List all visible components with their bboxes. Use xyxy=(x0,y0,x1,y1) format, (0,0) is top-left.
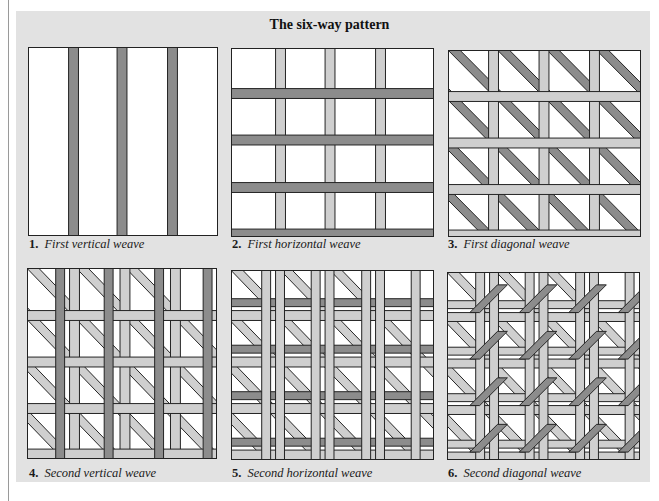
diagram-title: The six-way pattern xyxy=(0,17,659,33)
figure-6-second-diagonal-weave xyxy=(447,272,640,460)
vertical-strands-illustration xyxy=(29,48,217,235)
figure-5-second-horizontal-weave xyxy=(231,270,434,460)
second-horizontal-strands-illustration xyxy=(232,271,433,459)
horizontal-strands-illustration xyxy=(232,49,433,236)
figure-1-caption: 1.First vertical weave xyxy=(29,237,144,252)
second-vertical-strands-illustration xyxy=(28,269,216,458)
figure-4-second-vertical-weave xyxy=(27,268,217,459)
figure-2-first-horizontal-weave xyxy=(231,48,434,237)
figure-1-first-vertical-weave xyxy=(28,47,218,236)
figure-3-caption: 3.First diagonal weave xyxy=(448,237,570,252)
figure-2-caption: 2.First horizontal weave xyxy=(232,237,361,252)
figure-6-caption: 6.Second diagonal weave xyxy=(448,466,581,481)
figure-5-caption: 5.Second horizontal weave xyxy=(232,466,372,481)
figure-4-caption: 4.Second vertical weave xyxy=(29,466,156,481)
diagonal-strands-illustration xyxy=(449,51,640,236)
left-margin-rule xyxy=(8,0,9,501)
second-diagonal-strands-illustration xyxy=(448,273,639,459)
figure-3-first-diagonal-weave xyxy=(448,50,641,237)
